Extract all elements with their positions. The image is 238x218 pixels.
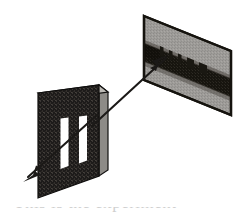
barrier-side-edge: [99, 85, 108, 176]
slit-right: [79, 116, 87, 164]
figure-caption: This is the experiment: [14, 207, 177, 213]
viewing-screen: [140, 16, 235, 115]
fringe-1: [160, 46, 164, 57]
fringe-2: [169, 50, 173, 61]
caption-strip: This is the experiment: [0, 207, 238, 218]
double-slit-figure: This is the experiment: [0, 0, 238, 218]
fringe-3: [178, 54, 182, 65]
figure-canvas: [0, 0, 238, 218]
double-slit-barrier: [38, 85, 108, 198]
